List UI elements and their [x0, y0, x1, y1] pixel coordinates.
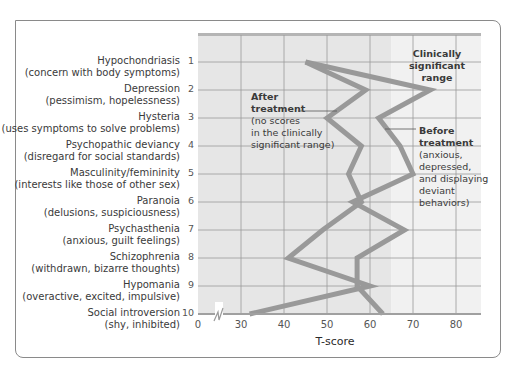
x-tick-label: 80: [450, 319, 463, 330]
after-treatment-title: treatment: [251, 103, 306, 114]
x-tick-label: 30: [235, 319, 248, 330]
before-treatment-note: deviant: [419, 185, 455, 196]
before-treatment-title: treatment: [419, 137, 474, 148]
clinical-range-label: range: [421, 72, 452, 83]
after-treatment-title: After: [251, 91, 278, 102]
x-tick-label: 40: [278, 319, 291, 330]
x-tick-label: 60: [364, 319, 377, 330]
after-treatment-note: (no scores: [251, 115, 300, 126]
x-tick-label: 0: [195, 319, 201, 330]
before-treatment-note: and displaying: [419, 173, 488, 184]
plot-top-border: [198, 33, 481, 36]
clinical-range-label: significant: [409, 60, 466, 71]
before-treatment-note: behaviors): [419, 197, 469, 208]
mmpi-profile-chart: ClinicallysignificantrangeAftertreatment…: [0, 0, 513, 376]
before-treatment-title: Before: [419, 125, 454, 136]
x-axis-title: T-score: [314, 335, 354, 348]
axis-break-gap: [215, 302, 223, 326]
after-treatment-note: significant range): [251, 139, 334, 150]
after-treatment-note: in the clinically: [251, 127, 323, 138]
before-treatment-note: (anxious,: [419, 149, 463, 160]
clinical-range-label: Clinically: [413, 48, 462, 59]
before-treatment-note: depressed,: [419, 161, 471, 172]
x-tick-label: 70: [407, 319, 420, 330]
x-tick-label: 50: [321, 319, 334, 330]
